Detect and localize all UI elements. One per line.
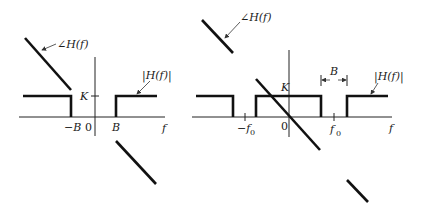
magnitude-left-segment	[23, 96, 71, 117]
svg-text:f: f	[329, 123, 336, 136]
pos-band-label: B	[111, 121, 120, 134]
svg-text:0: 0	[336, 129, 341, 138]
neg-center-label: −f 0	[237, 122, 255, 137]
svg-text:0: 0	[250, 128, 255, 137]
bandpass-diagram: ∠H(f) |H(f)| K B 0 −f 0 f 0 f	[192, 11, 404, 202]
gain-label: K	[79, 90, 89, 103]
magnitude-right-segment	[347, 96, 388, 117]
pos-center-label: f 0	[329, 123, 341, 138]
phase-label: ∠H(f)	[57, 38, 88, 51]
phase-label-arrow	[42, 44, 56, 50]
magnitude-right-segment	[116, 96, 157, 117]
magnitude-label-arrow	[137, 81, 150, 94]
origin-label: 0	[281, 120, 288, 133]
phase-lower-segment	[116, 141, 156, 184]
magnitude-label: |H(f)|	[142, 69, 172, 83]
axis-label: f	[388, 122, 395, 135]
neg-band-label: −B	[64, 121, 81, 134]
phase-upper-segment	[202, 20, 233, 53]
bandwidth-label: B	[329, 65, 338, 78]
phase-lower-segment	[347, 180, 368, 202]
gain-label: K	[280, 81, 290, 94]
phase-label-arrow	[225, 22, 240, 38]
magnitude-label: |H(f)|	[374, 70, 404, 84]
axis-label: f	[161, 122, 168, 135]
magnitude-label-arrow	[371, 83, 378, 94]
phase-label: ∠H(f)	[240, 11, 271, 24]
origin-label: 0	[85, 121, 92, 134]
filter-response-figure: ∠H(f) |H(f)| K −B 0 B f ∠H(f) |H(f)| K B…	[0, 0, 421, 216]
lowpass-diagram: ∠H(f) |H(f)| K −B 0 B f	[19, 38, 172, 184]
magnitude-left-segment	[196, 96, 233, 117]
